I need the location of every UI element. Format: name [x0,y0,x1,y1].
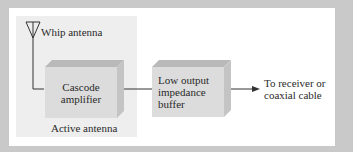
cascode-amplifier-block: Cascode amplifier [45,60,124,118]
buffer-line-2: impedance [158,86,209,98]
buffer-line-3: buffer [158,98,209,110]
cascode-line-2: amplifier [61,93,101,105]
active-antenna-label: Active antenna [51,122,117,134]
antenna-icon [26,22,40,38]
output-line-2: coaxial cable [264,89,326,101]
arrow-head-icon [252,86,260,92]
low-output-impedance-buffer-block: Low output impedance buffer [152,60,231,117]
output-line-1: To receiver or [264,77,326,89]
whip-antenna-label: Whip antenna [41,26,102,38]
cascode-line-1: Cascode [61,81,101,93]
antenna-feed-line [33,38,44,89]
buffer-line-1: Low output [158,74,209,86]
output-label: To receiver or coaxial cable [264,77,326,101]
